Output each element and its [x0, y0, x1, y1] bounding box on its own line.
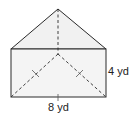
height-label: 4 yd — [108, 65, 129, 77]
geometry-diagram: 4 yd 8 yd — [0, 0, 135, 118]
top-triangle-face — [11, 9, 106, 49]
base-label: 8 yd — [48, 101, 69, 113]
rectangle-face — [11, 49, 106, 97]
